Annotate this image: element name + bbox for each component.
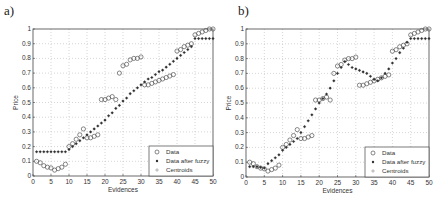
svg-text:10: 10 <box>279 179 287 186</box>
svg-text:50: 50 <box>425 179 433 186</box>
chart-plot: 0510152025303540455000.10.20.30.40.50.60… <box>0 0 222 199</box>
y-axis-label: Price <box>12 95 19 110</box>
series-fuzzy-markers <box>35 37 215 153</box>
svg-text:20: 20 <box>316 179 324 186</box>
svg-text:35: 35 <box>155 178 163 185</box>
svg-text:10: 10 <box>65 178 73 185</box>
legend-entry-fuzzy: Data after fuzzy <box>166 157 210 164</box>
svg-text:0.4: 0.4 <box>235 114 244 121</box>
svg-text:50: 50 <box>209 178 217 185</box>
svg-text:45: 45 <box>191 178 199 185</box>
svg-text:40: 40 <box>173 178 181 185</box>
svg-text:30: 30 <box>137 178 145 185</box>
svg-text:35: 35 <box>370 179 378 186</box>
chart-plot: 0510152025303540455000.10.20.30.40.50.60… <box>222 0 445 199</box>
x-axis-label: Evidences <box>108 186 139 193</box>
svg-text:0.5: 0.5 <box>22 99 31 106</box>
svg-text:0: 0 <box>27 172 31 179</box>
svg-text:0: 0 <box>244 179 248 186</box>
legend-entry-data: Data <box>166 148 180 155</box>
svg-text:0.9: 0.9 <box>22 40 31 47</box>
svg-text:0: 0 <box>31 178 35 185</box>
svg-text:0.8: 0.8 <box>22 54 31 61</box>
svg-text:0.6: 0.6 <box>22 84 31 91</box>
svg-text:0.6: 0.6 <box>235 84 244 91</box>
svg-text:20: 20 <box>101 178 109 185</box>
x-axis-label: Evidences <box>323 187 354 194</box>
svg-text:0.1: 0.1 <box>235 158 244 165</box>
legend-entry-data: Data <box>382 149 396 156</box>
svg-text:30: 30 <box>352 179 360 186</box>
svg-text:0.9: 0.9 <box>235 40 244 47</box>
svg-text:15: 15 <box>83 178 91 185</box>
legend-entry-centroids: Centroids <box>166 166 192 173</box>
svg-text:1: 1 <box>240 25 244 32</box>
svg-text:1: 1 <box>27 25 31 32</box>
chart-legend: DataData after fuzzyCentroids <box>365 147 429 177</box>
legend-entry-centroids: Centroids <box>382 167 408 174</box>
svg-text:25: 25 <box>334 179 342 186</box>
chart-panel-a: a) 0510152025303540455000.10.20.30.40.50… <box>0 0 222 199</box>
y-axis-label: Price <box>225 95 232 110</box>
svg-text:0.7: 0.7 <box>235 69 244 76</box>
svg-text:45: 45 <box>407 179 415 186</box>
svg-text:0.4: 0.4 <box>22 113 31 120</box>
svg-text:0.3: 0.3 <box>22 128 31 135</box>
svg-text:40: 40 <box>389 179 397 186</box>
svg-text:0: 0 <box>240 173 244 180</box>
svg-text:0.7: 0.7 <box>22 69 31 76</box>
svg-text:5: 5 <box>262 179 266 186</box>
chart-panel-b: b) 0510152025303540455000.10.20.30.40.50… <box>222 0 445 199</box>
svg-text:0.5: 0.5 <box>235 99 244 106</box>
svg-text:15: 15 <box>297 179 305 186</box>
svg-text:0.1: 0.1 <box>22 157 31 164</box>
svg-text:0.8: 0.8 <box>235 55 244 62</box>
chart-legend: DataData after fuzzyCentroids <box>149 146 213 176</box>
svg-text:25: 25 <box>119 178 127 185</box>
legend-entry-fuzzy: Data after fuzzy <box>382 158 426 165</box>
svg-text:0.2: 0.2 <box>22 143 31 150</box>
svg-text:5: 5 <box>49 178 53 185</box>
svg-text:0.2: 0.2 <box>235 143 244 150</box>
svg-text:0.3: 0.3 <box>235 129 244 136</box>
